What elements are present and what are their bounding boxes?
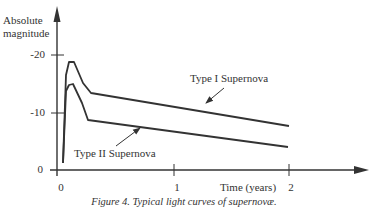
y-tick-label: -10 (30, 106, 45, 118)
y-axis-label-line2: magnitude (3, 27, 50, 39)
y-axis-arrow-icon (54, 6, 61, 22)
y-axis: Absolute magnitude -20 -10 0 (3, 6, 64, 176)
x-axis-arrow-icon (354, 166, 369, 174)
type-ii-annotation: Type II Supernova (74, 128, 156, 159)
y-tick-label: 0 (38, 163, 44, 175)
x-tick-label: 1 (174, 181, 180, 193)
type-i-label: Type I Supernova (190, 72, 268, 84)
type-i-arrow-icon (206, 88, 224, 103)
x-tick-label: 0 (58, 181, 64, 193)
type-i-annotation: Type I Supernova (190, 72, 268, 103)
supernova-light-curve-chart: Absolute magnitude -20 -10 0 0 1 2 Time … (0, 0, 372, 208)
x-axis-label: Time (years) (220, 181, 276, 194)
x-tick-label: 2 (288, 181, 294, 193)
figure-caption: Figure 4. Typical light curves of supern… (90, 196, 276, 207)
x-axis: 0 1 2 Time (years) (50, 164, 369, 194)
y-tick-label: -20 (30, 48, 45, 60)
y-axis-label-line1: Absolute (3, 14, 43, 26)
type-ii-arrow-icon (116, 128, 140, 146)
type-ii-label: Type II Supernova (74, 147, 156, 159)
